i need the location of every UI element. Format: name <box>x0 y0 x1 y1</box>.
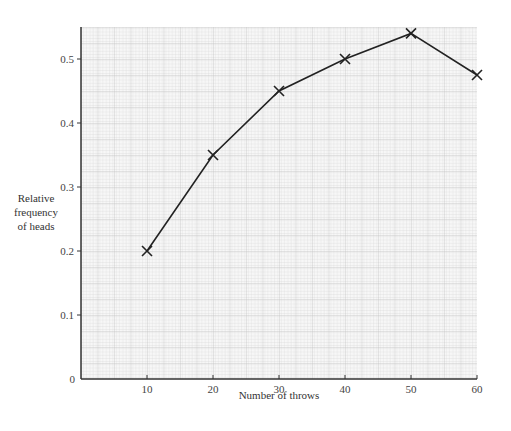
x-tick-label: 60 <box>472 383 484 395</box>
y-axis-title-line: of heads <box>18 220 55 232</box>
y-tick-label: 0.4 <box>60 117 74 129</box>
y-axis-title-line: frequency <box>14 206 58 218</box>
x-axis-title: Number of throws <box>239 389 320 401</box>
y-tick-label: 0 <box>70 373 76 385</box>
y-axis-title-line: Relative <box>18 192 55 204</box>
y-tick-label: 0.2 <box>60 245 74 257</box>
y-tick-label: 0.1 <box>60 309 74 321</box>
y-ticks: 00.10.20.30.40.5 <box>60 53 81 385</box>
x-tick-label: 10 <box>142 383 154 395</box>
x-tick-label: 50 <box>406 383 418 395</box>
y-tick-label: 0.5 <box>60 53 74 65</box>
x-tick-label: 40 <box>340 383 352 395</box>
x-tick-label: 20 <box>208 383 220 395</box>
y-axis-title: Relativefrequencyof heads <box>14 192 58 232</box>
y-tick-label: 0.3 <box>60 181 74 193</box>
line-chart: 00.10.20.30.40.5 102030405060 Relativefr… <box>0 0 511 431</box>
